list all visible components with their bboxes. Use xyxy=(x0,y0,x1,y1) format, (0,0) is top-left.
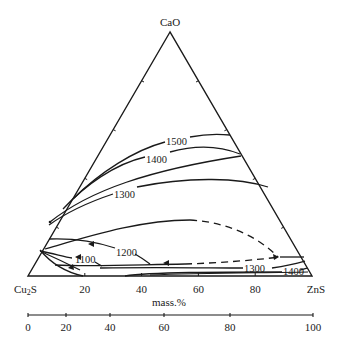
base-tick-label: 60 xyxy=(193,283,205,295)
scale-tick-label: 40 xyxy=(105,321,117,333)
isotherm-1400 xyxy=(63,157,145,209)
scale-tick-label: 0 xyxy=(25,321,31,333)
arrow-icon xyxy=(273,254,279,260)
right-edge-ticks xyxy=(196,81,284,229)
scale-bar xyxy=(28,313,313,317)
isotherm-label-1200: 1200 xyxy=(116,247,137,258)
isotherm-label-1300: 1300 xyxy=(114,189,135,200)
isotherm-1300 xyxy=(49,194,113,225)
boundary-curve-bottom-dashed xyxy=(185,257,280,264)
vertex-right-label: ZnS xyxy=(307,283,325,295)
left-edge-ticks xyxy=(56,81,144,229)
boundary-curve-dashed xyxy=(190,220,278,257)
isotherm-label-1400-lower: 1400 xyxy=(283,266,304,277)
isotherm-1500-right xyxy=(190,134,230,137)
boundary-curve-middle xyxy=(45,220,190,249)
point-icon xyxy=(49,221,52,224)
scale-tick-label: 80 xyxy=(225,321,237,333)
scale-tick-label: 100 xyxy=(305,321,322,333)
ternary-diagram: CaO ZnS Cu2S 20 40 60 80 mass.% 1500 140… xyxy=(0,0,339,346)
scale-tick-label: 20 xyxy=(61,321,73,333)
isotherm-1300-right xyxy=(137,179,268,187)
scale-tick-label: 60 xyxy=(159,321,171,333)
isotherm-1400-right xyxy=(170,147,240,154)
unit-label: mass.% xyxy=(152,296,186,308)
isotherm-label-1100: 1100 xyxy=(75,254,96,265)
base-tick-label: 20 xyxy=(79,283,91,295)
base-tick-label: 80 xyxy=(250,283,262,295)
vertex-left-label: Cu2S xyxy=(14,283,37,297)
isotherm-1200-segment xyxy=(135,254,150,264)
isotherm-label-1300-lower: 1300 xyxy=(244,263,265,274)
boundary-curve-crossing xyxy=(49,239,115,248)
base-tick-label: 40 xyxy=(136,283,148,295)
arrow-icon xyxy=(163,260,169,266)
isotherm-label-1500: 1500 xyxy=(166,136,187,147)
isotherm-label-1400: 1400 xyxy=(146,154,167,165)
vertex-top-label: CaO xyxy=(160,16,180,28)
